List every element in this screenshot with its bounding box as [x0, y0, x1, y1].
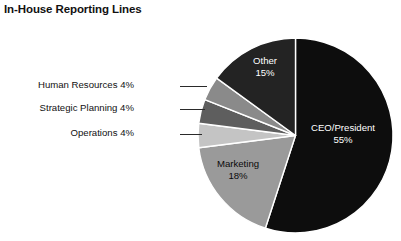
slice-label-ceo-president-name: CEO/President: [295, 122, 391, 134]
slice-label-other-name: Other: [231, 55, 299, 67]
pie-chart-figure: In-House Reporting Lines Human Resources…: [0, 0, 401, 241]
callout-human-resources-label: Human Resources 4%: [38, 79, 134, 91]
callout-operations: Operations 4%: [71, 127, 134, 139]
slice-label-other-value: 15%: [231, 67, 299, 79]
slice-label-marketing-value: 18%: [199, 170, 277, 182]
slice-label-marketing-name: Marketing: [199, 158, 277, 170]
slice-label-other: Other 15%: [231, 55, 299, 79]
callout-strategic-planning: Strategic Planning 4%: [40, 102, 134, 114]
leader-line-strategic-planning: [180, 109, 205, 110]
pie-chart-canvas: [0, 0, 401, 241]
leader-line-human-resources: [180, 86, 207, 87]
callout-human-resources: Human Resources 4%: [38, 79, 134, 91]
slice-label-ceo-president-value: 55%: [295, 134, 391, 146]
callout-strategic-planning-label: Strategic Planning 4%: [40, 102, 134, 114]
leader-line-operations: [180, 134, 202, 135]
callout-operations-label: Operations 4%: [71, 127, 134, 139]
slice-label-ceo-president: CEO/President 55%: [295, 122, 391, 146]
slice-label-marketing: Marketing 18%: [199, 158, 277, 182]
